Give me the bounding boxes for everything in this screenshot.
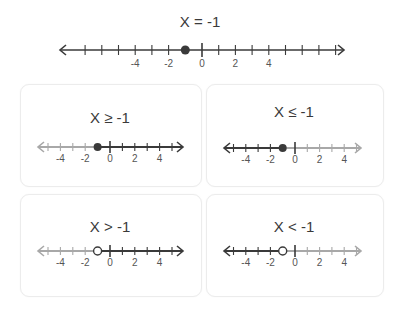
tick-label: -4 [241, 154, 250, 165]
tick-label: 2 [132, 153, 138, 164]
tick-label: 4 [157, 257, 163, 268]
closed-point-icon [279, 144, 287, 152]
tick-label: 0 [292, 257, 298, 268]
tick-label: -4 [56, 257, 65, 268]
tick-label: -4 [56, 153, 65, 164]
tick-label: -2 [81, 257, 90, 268]
tick-label: 0 [292, 154, 298, 165]
open-point-icon [94, 247, 102, 255]
tick-label: 4 [341, 257, 347, 268]
tick-label: 4 [157, 153, 163, 164]
tick-label: 4 [341, 154, 347, 165]
tick-label: 2 [317, 154, 323, 165]
tick-label: 0 [107, 153, 113, 164]
open-point-icon [279, 247, 287, 255]
tick-label: -2 [266, 154, 275, 165]
tick-label: 0 [107, 257, 113, 268]
tick-label: -2 [81, 153, 90, 164]
tick-label: -2 [266, 257, 275, 268]
tick-label: 2 [132, 257, 138, 268]
tick-label: 2 [317, 257, 323, 268]
tick-label: -4 [241, 257, 250, 268]
number-lines-cards: -4-2024-4-2024-4-2024-4-2024 [0, 0, 397, 310]
closed-point-icon [94, 143, 102, 151]
